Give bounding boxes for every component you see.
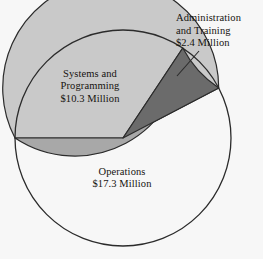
pie-chart-graphic xyxy=(0,0,263,259)
pie-chart: Systems and Programming $10.3 Million Op… xyxy=(0,0,263,259)
